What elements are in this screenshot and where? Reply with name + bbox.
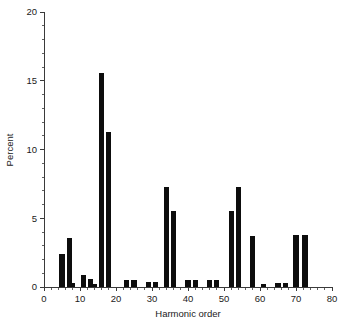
x-tick-label: 0	[41, 293, 46, 304]
x-tick-label: 60	[255, 293, 266, 304]
x-tick-label: 30	[147, 293, 158, 304]
y-axis-tick-labels: 05101520	[26, 6, 37, 292]
harmonic-order-bar-chart: 05101520 01020304050607080 Harmonic orde…	[0, 0, 350, 325]
bar-series	[59, 73, 307, 288]
bar	[92, 284, 97, 287]
y-axis: 05101520	[26, 6, 44, 292]
bar	[302, 235, 307, 287]
bar	[67, 238, 72, 288]
y-tick-label: 10	[26, 144, 37, 155]
x-axis: 01020304050607080	[41, 287, 337, 304]
bar	[250, 236, 255, 287]
bar	[185, 280, 190, 287]
bar	[283, 283, 288, 287]
x-tick-label: 70	[291, 293, 302, 304]
x-axis-tick-labels: 01020304050607080	[41, 293, 337, 304]
bar	[146, 282, 151, 288]
y-tick-label: 15	[26, 75, 37, 86]
bar	[207, 280, 212, 287]
bar	[214, 280, 219, 287]
bar	[124, 280, 129, 287]
y-tick-label: 20	[26, 6, 37, 17]
y-tick-label: 5	[32, 213, 37, 224]
y-axis-title: Percent	[4, 133, 15, 166]
bar	[164, 187, 169, 287]
bar	[236, 187, 241, 287]
bar	[229, 211, 234, 287]
bar	[193, 280, 198, 287]
x-tick-label: 10	[75, 293, 86, 304]
bar	[275, 283, 280, 287]
x-tick-label: 20	[111, 293, 122, 304]
bar	[81, 275, 86, 287]
bar	[106, 132, 111, 287]
bar	[70, 283, 75, 287]
x-axis-title: Harmonic order	[155, 308, 220, 319]
y-tick-label: 0	[32, 281, 37, 292]
bar	[131, 280, 136, 287]
bar	[99, 73, 104, 288]
bar	[293, 235, 298, 287]
x-tick-label: 40	[183, 293, 194, 304]
x-tick-label: 50	[219, 293, 230, 304]
chart-canvas: 05101520 01020304050607080 Harmonic orde…	[0, 0, 350, 325]
bar	[153, 282, 158, 288]
bar	[261, 284, 266, 287]
bar	[59, 254, 64, 287]
bar	[171, 211, 176, 287]
x-tick-label: 80	[327, 293, 338, 304]
